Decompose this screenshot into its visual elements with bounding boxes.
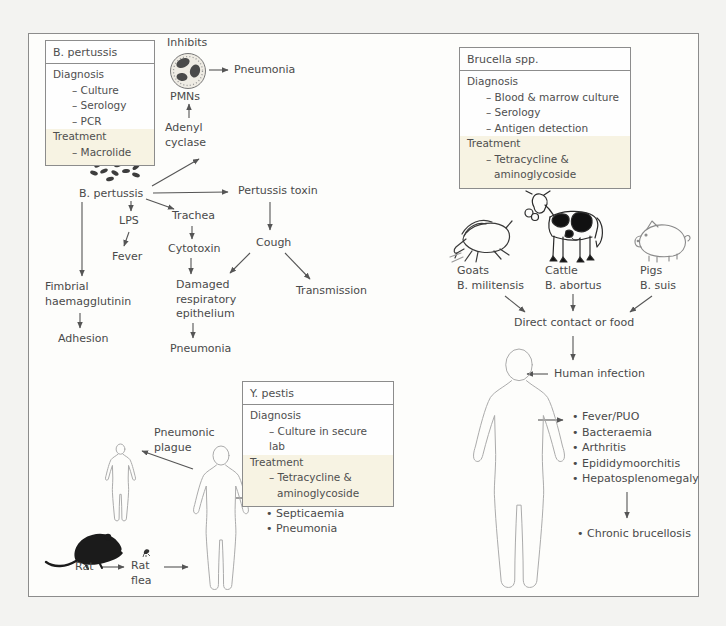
arrow-goats-to-contact xyxy=(505,296,525,312)
adhesion-label: Adhesion xyxy=(58,332,109,347)
pertussis-toxin-label: Pertussis toxin xyxy=(238,184,318,199)
infobox-body: Diagnosis – Blood & marrow culture – Ser… xyxy=(460,71,630,188)
arrow-cough-to-damaged xyxy=(230,253,250,273)
pigs-label: Pigs B. suis xyxy=(640,264,676,293)
diagnosis-item: – PCR xyxy=(46,114,154,130)
list-item: • Bacteraemia xyxy=(572,425,699,441)
pig-icon xyxy=(635,221,690,262)
infobox-body: Diagnosis – Culture – Serology – PCR Tre… xyxy=(46,64,154,165)
treatment-label: Treatment xyxy=(243,455,393,471)
list-item: • Fever/PUO xyxy=(572,409,699,425)
diagnosis-item: – Blood & marrow culture xyxy=(460,90,630,106)
infobox-title: Brucella spp. xyxy=(460,48,630,71)
damaged-epithelium-label: Damaged respiratory epithelium xyxy=(176,278,236,322)
diagnosis-item: – Culture in secure lab xyxy=(243,424,393,455)
arrow-organism-to-adenyl xyxy=(152,159,199,186)
pmns-label: PMNs xyxy=(170,90,200,105)
treatment-item: – Tetracycline & xyxy=(460,152,630,168)
treatment-label: Treatment xyxy=(46,129,154,145)
brucella-symptoms-list: • Fever/PUO • Bacteraemia • Arthritis • … xyxy=(572,409,699,487)
treatment-section: Treatment – Tetracycline & aminoglycosid… xyxy=(243,455,393,507)
arrow-lps-to-fever xyxy=(124,232,129,246)
arrow-organism-to-toxin xyxy=(153,192,228,193)
list-item: • Epididymoorchitis xyxy=(572,456,699,472)
arrow-organism-to-trachea xyxy=(146,199,174,209)
brucella-infobox: Brucella spp. Diagnosis – Blood & marrow… xyxy=(459,47,631,189)
fever-label: Fever xyxy=(112,250,142,265)
treatment-section: Treatment – Tetracycline & aminoglycosid… xyxy=(460,136,630,188)
infobox-title: B. pertussis xyxy=(46,41,154,64)
treatment-item: – Tetracycline & xyxy=(243,470,393,486)
treatment-label: Treatment xyxy=(460,136,630,152)
pneumonic-plague-label: Pneumonic plague xyxy=(154,426,215,455)
flea-icon xyxy=(143,549,150,557)
diagnosis-label: Diagnosis xyxy=(46,67,154,83)
list-item: • Arthritis xyxy=(572,440,699,456)
rat-label: Rat xyxy=(75,560,93,575)
infobox-title: Y. pestis xyxy=(243,382,393,405)
human-figure-icon xyxy=(474,349,565,587)
human-figure-icon xyxy=(194,446,249,590)
diagnosis-item: – Culture xyxy=(46,83,154,99)
inhibits-label: Inhibits xyxy=(167,36,207,51)
human-infection-label: Human infection xyxy=(554,367,645,382)
treatment-item: aminoglycoside xyxy=(243,486,393,502)
list-item: • Hepatosplenomegaly xyxy=(572,471,699,487)
cough-label: Cough xyxy=(256,236,291,251)
diagnosis-label: Diagnosis xyxy=(243,408,393,424)
fimbrial-label: Fimbrial haemagglutinin xyxy=(45,280,131,309)
treatment-item: – Macrolide xyxy=(46,145,154,161)
diagnosis-item: – Antigen detection xyxy=(460,121,630,137)
diagnosis-label: Diagnosis xyxy=(460,74,630,90)
trachea-label: Trachea xyxy=(172,209,215,224)
treatment-item: aminoglycoside xyxy=(460,167,630,183)
goats-label: Goats B. militensis xyxy=(457,264,524,293)
chronic-brucellosis-label: • Chronic brucellosis xyxy=(577,527,691,542)
arrow-pigs-to-contact xyxy=(630,296,652,312)
rat-flea-label: Rat flea xyxy=(131,559,151,588)
cattle-label: Cattle B. abortus xyxy=(545,264,602,293)
infobox-body: Diagnosis – Culture in secure lab Treatm… xyxy=(243,405,393,506)
diagnosis-item: – Serology xyxy=(460,105,630,121)
pneumonia-top-label: Pneumonia xyxy=(234,63,295,78)
list-item: • Pneumonia xyxy=(266,521,344,537)
cow-icon xyxy=(525,191,602,262)
plague-arrows xyxy=(102,451,260,567)
goat-icon xyxy=(450,221,512,263)
human-figure-icon xyxy=(105,444,135,521)
lps-label: LPS xyxy=(119,214,139,229)
pmn-cell-icon xyxy=(171,54,206,89)
pneumonia-lower-label: Pneumonia xyxy=(170,342,231,357)
list-item: • Septicaemia xyxy=(266,506,344,522)
pertussis-infobox: B. pertussis Diagnosis – Culture – Serol… xyxy=(45,40,155,166)
ypestis-infobox: Y. pestis Diagnosis – Culture in secure … xyxy=(242,381,394,507)
direct-contact-label: Direct contact or food xyxy=(514,316,634,331)
transmission-label: Transmission xyxy=(296,284,367,299)
arrow-cough-to-transmission xyxy=(285,253,310,279)
diagnosis-item: – Serology xyxy=(46,98,154,114)
cytotoxin-label: Cytotoxin xyxy=(168,242,220,257)
b-pertussis-label: B. pertussis xyxy=(79,187,143,202)
adenyl-cyclase-label: Adenyl cyclase xyxy=(165,121,206,150)
figure-canvas: B. pertussis Diagnosis – Culture – Serol… xyxy=(0,0,726,626)
treatment-section: Treatment – Macrolide xyxy=(46,129,154,165)
